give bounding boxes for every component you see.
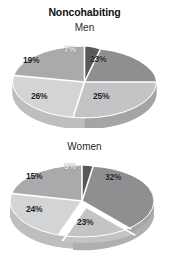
figure-title: Noncohabiting [0,6,169,18]
pie-women-label-15: 15% [26,171,42,181]
pie-women-label-5: 5% [64,161,76,171]
pie-women-label-23: 23% [77,217,93,227]
panel-label-men: Men [0,22,169,34]
pie-men-label-26: 26% [31,91,47,101]
pie-chart-women: 32% 23% 24% 15% 5% [0,157,169,257]
pie-chart-men: 23% 25% 26% 19% 7% [0,38,169,128]
pie-women-label-32: 32% [105,172,121,182]
pie-men-label-7: 7% [64,44,76,54]
pie-chart-figure: Noncohabiting Men [0,0,169,267]
pie-men-label-19: 19% [23,55,39,65]
pie-women-label-24: 24% [26,204,42,214]
pie-men-label-25: 25% [93,91,109,101]
pie-men-svg [0,38,169,128]
pie-men-label-23: 23% [90,54,106,64]
panel-label-women: Women [0,141,169,153]
